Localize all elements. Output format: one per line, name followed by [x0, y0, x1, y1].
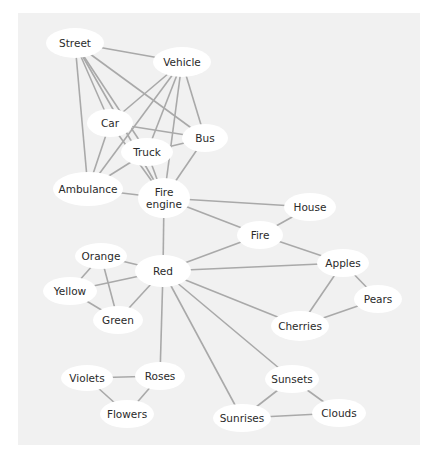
- edge-red-sunrises: [163, 271, 242, 418]
- node-street: Street: [46, 28, 104, 58]
- node-pears: Pears: [354, 285, 402, 313]
- node-cherries: Cherries: [271, 311, 329, 341]
- edge-layer: [0, 0, 438, 462]
- node-red: Red: [135, 255, 191, 287]
- node-apples: Apples: [317, 249, 369, 277]
- node-sunsets: Sunsets: [265, 365, 319, 393]
- node-bus: Bus: [182, 124, 228, 152]
- node-ambulance: Ambulance: [53, 172, 123, 206]
- node-orange: Orange: [75, 243, 127, 269]
- node-house: House: [284, 193, 336, 221]
- node-truck: Truck: [121, 138, 173, 166]
- node-sunrises: Sunrises: [213, 404, 271, 432]
- edge-street-ambulance: [75, 43, 88, 189]
- node-violets: Violets: [61, 365, 113, 391]
- node-yellow: Yellow: [43, 277, 97, 305]
- node-fire-engine: Fire engine: [138, 178, 190, 218]
- node-flowers: Flowers: [100, 400, 154, 428]
- node-car: Car: [87, 109, 133, 137]
- node-clouds: Clouds: [312, 399, 366, 427]
- node-fire: Fire: [237, 221, 283, 249]
- node-roses: Roses: [135, 362, 185, 390]
- node-green: Green: [93, 306, 143, 334]
- node-vehicle: Vehicle: [153, 47, 211, 77]
